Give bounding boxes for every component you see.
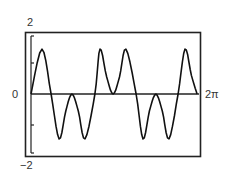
plot-area: [0, 0, 226, 179]
